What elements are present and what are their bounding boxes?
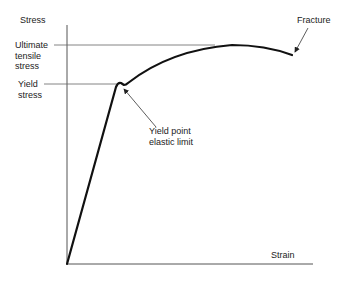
yield-point-label: Yield point elastic limit	[149, 126, 193, 147]
yield-stress-line1: Yield	[18, 79, 42, 90]
yield-point-line2: elastic limit	[149, 137, 193, 148]
y-axis-label: Stress	[20, 15, 46, 26]
fracture-arrow	[295, 28, 308, 52]
yield-point-arrow	[124, 89, 156, 127]
yield-stress-label: Yield stress	[18, 79, 42, 100]
yield-stress-line2: stress	[18, 90, 42, 101]
ultimate-label-line2: tensile	[15, 51, 48, 62]
fracture-label: Fracture	[297, 15, 331, 26]
ultimate-tensile-stress-label: Ultimate tensile stress	[15, 40, 48, 72]
yield-point-line1: Yield point	[149, 126, 193, 137]
ultimate-label-line3: stress	[15, 61, 48, 72]
x-axis-label: Strain	[271, 250, 295, 261]
stress-strain-curve	[67, 45, 292, 264]
ultimate-label-line1: Ultimate	[15, 40, 48, 51]
